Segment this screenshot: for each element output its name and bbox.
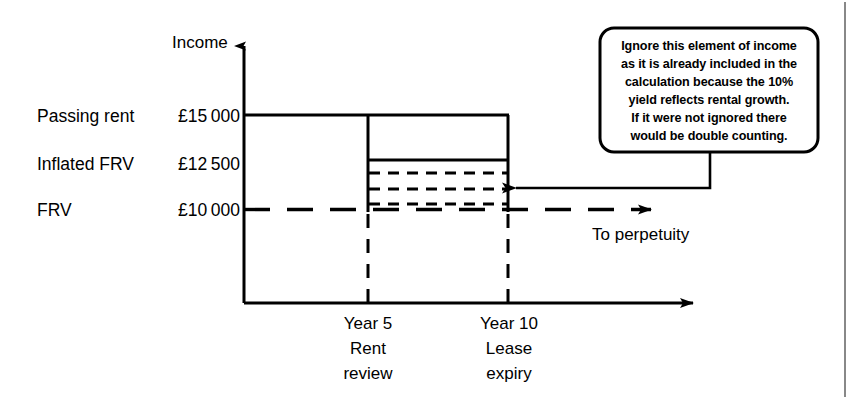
row-label-inflated-frv: Inflated FRV	[37, 154, 134, 174]
to-perpetuity-label: To perpetuity	[592, 225, 690, 244]
y-axis-title: Income	[172, 33, 228, 52]
row-labels-group: Passing rent Inflated FRV FRV	[37, 106, 134, 220]
callout-line-5: If it were not ignored there	[631, 111, 786, 125]
callout-line-3: calculation because the 10%	[625, 75, 793, 89]
xtick-year10-line2: Lease	[486, 339, 532, 358]
callout-line-1: Ignore this element of income	[621, 39, 797, 53]
xtick-year5-line3: review	[343, 364, 393, 383]
callout-leader-line	[516, 152, 710, 188]
row-label-passing-rent: Passing rent	[37, 106, 134, 126]
callout-line-6: would be double counting.	[629, 129, 787, 143]
diagram-svg: Ignore this element of income as it is a…	[0, 0, 853, 399]
callout-line-4: yield reflects rental growth.	[629, 93, 790, 107]
xtick-year5-line2: Rent	[350, 339, 386, 358]
money-labels-group: £15 000 £12 500 £10 000	[178, 106, 240, 220]
row-label-frv: FRV	[37, 200, 72, 220]
value-inflated-frv: £12 500	[178, 154, 240, 174]
xtick-year5-line1: Year 5	[344, 314, 393, 333]
passing-rent-block	[244, 115, 509, 212]
rental-growth-hatch-band	[369, 173, 507, 204]
x-tick-labels-group: Year 5 Rent review Year 10 Lease expiry	[343, 314, 538, 383]
value-passing-rent: £15 000	[178, 106, 240, 126]
callout-line-2: as it is already included in the	[621, 57, 797, 71]
xtick-year10-line3: expiry	[486, 364, 532, 383]
tick-verticals-dashed	[368, 214, 508, 302]
xtick-year10-line1: Year 10	[480, 314, 538, 333]
figure-canvas: Ignore this element of income as it is a…	[0, 0, 853, 399]
value-frv: £10 000	[178, 200, 240, 220]
